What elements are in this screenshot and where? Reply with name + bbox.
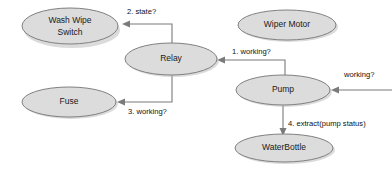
node-label-line1: Wiper Motor — [264, 19, 310, 29]
diagram-svg: Wash Wipe Switch Relay Fuse Wiper Motor — [0, 0, 392, 170]
node-label-line1: Pump — [272, 84, 294, 94]
edge-external-to-pump[interactable] — [331, 87, 392, 94]
node-relay[interactable]: Relay — [125, 43, 219, 77]
node-label-line2: Switch — [57, 27, 82, 37]
arrowhead-icon — [122, 21, 130, 28]
edge-relay-to-fuse[interactable] — [117, 74, 172, 106]
edge-label-extract-pump-status: 4. extract(pump status) — [288, 119, 366, 128]
node-label-line1: WaterBottle — [262, 142, 306, 152]
arrowhead-icon — [331, 87, 339, 94]
node-pump[interactable]: Pump — [236, 75, 332, 107]
node-label-line1: Relay — [160, 53, 182, 63]
node-shape — [22, 8, 118, 44]
edge-label-working-external: working? — [343, 70, 374, 79]
nodes-layer: Wash Wipe Switch Relay Fuse Wiper Motor — [22, 8, 338, 164]
node-wiper-motor[interactable]: Wiper Motor — [238, 10, 338, 42]
node-fuse[interactable]: Fuse — [22, 87, 118, 119]
edge-label-working-3: 3. working? — [128, 107, 167, 116]
diagram-canvas: Wash Wipe Switch Relay Fuse Wiper Motor — [0, 0, 392, 170]
arrowhead-icon — [117, 99, 125, 106]
node-water-bottle[interactable]: WaterBottle — [235, 134, 335, 164]
node-label-line1: Wash Wipe — [48, 15, 91, 25]
edge-label-state: 2. state? — [127, 7, 156, 16]
edge-label-working-1: 1. working? — [232, 47, 271, 56]
node-label-line1: Fuse — [60, 96, 79, 106]
node-wash-wipe-switch[interactable]: Wash Wipe Switch — [22, 8, 120, 48]
edge-pump-to-waterbottle[interactable] — [280, 105, 287, 136]
edge-relay-to-switch[interactable] — [122, 21, 172, 47]
edge-path — [121, 74, 172, 102]
